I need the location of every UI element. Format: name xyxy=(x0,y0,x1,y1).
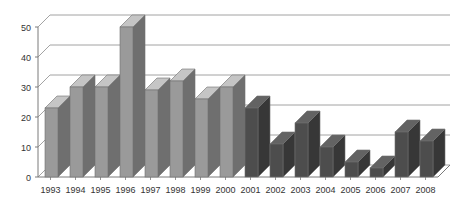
gridline-depth-connector xyxy=(38,15,50,27)
bar-column xyxy=(145,78,170,177)
x-axis-tick-label: 1993 xyxy=(40,185,60,195)
x-axis-tick-label: 1999 xyxy=(190,185,210,195)
bar-column xyxy=(345,150,370,177)
y-axis-tick-label: 20 xyxy=(21,113,31,123)
x-axis-tick-label: 1996 xyxy=(115,185,135,195)
y-axis-tick-label: 40 xyxy=(21,53,31,63)
x-axis-tick-label: 2002 xyxy=(265,185,285,195)
x-axis-tick-labels: 1993199419951996199719981999200020012002… xyxy=(40,185,435,195)
x-axis-tick-label: 2000 xyxy=(215,185,235,195)
bar-column xyxy=(320,135,345,177)
bar-side-face xyxy=(58,96,70,177)
bar-front-face xyxy=(370,168,383,177)
bar-side-face xyxy=(108,75,120,177)
y-axis-tick-label: 10 xyxy=(21,143,31,153)
bar-column xyxy=(120,15,145,177)
bar-side-face xyxy=(183,69,195,177)
bar-front-face xyxy=(270,144,283,177)
bar-front-face xyxy=(345,162,358,177)
x-axis-tick-label: 1997 xyxy=(140,185,160,195)
x-axis-tick-label: 2006 xyxy=(365,185,385,195)
bar-side-face xyxy=(133,15,145,177)
bar-front-face xyxy=(420,141,433,177)
x-axis-tick-label: 2004 xyxy=(315,185,335,195)
y-axis-tick-label: 0 xyxy=(26,173,31,183)
bar-front-face xyxy=(395,132,408,177)
x-axis-tick-label: 1994 xyxy=(65,185,85,195)
gridline-depth-connector xyxy=(38,75,50,87)
x-axis-tick-label: 2008 xyxy=(415,185,435,195)
bar-front-face xyxy=(295,123,308,177)
bar-column xyxy=(420,129,445,177)
bar-front-face xyxy=(170,81,183,177)
bar-front-face xyxy=(120,27,133,177)
x-axis-tick-label: 2001 xyxy=(240,185,260,195)
bar-front-face xyxy=(70,87,83,177)
bar-column xyxy=(245,96,270,177)
gridline-depth-connector xyxy=(38,45,50,57)
bar-chart: 01020304050 1993199419951996199719981999… xyxy=(0,0,456,209)
bar-front-face xyxy=(195,99,208,177)
bar-front-face xyxy=(45,108,58,177)
bar-side-face xyxy=(158,78,170,177)
bar-series xyxy=(45,15,445,177)
chart-canvas: 01020304050 1993199419951996199719981999… xyxy=(0,0,456,209)
bar-column xyxy=(95,75,120,177)
bar-column xyxy=(195,87,220,177)
bar-column xyxy=(45,96,70,177)
bar-column xyxy=(395,120,420,177)
bar-side-face xyxy=(258,96,270,177)
x-axis-tick-label: 1998 xyxy=(165,185,185,195)
x-axis-tick-label: 2005 xyxy=(340,185,360,195)
bar-front-face xyxy=(95,87,108,177)
bar-column xyxy=(220,75,245,177)
bar-front-face xyxy=(220,87,233,177)
bar-column xyxy=(370,156,395,177)
bar-front-face xyxy=(145,90,158,177)
bar-column xyxy=(170,69,195,177)
x-axis-tick-label: 1995 xyxy=(90,185,110,195)
bar-front-face xyxy=(320,147,333,177)
bar-column xyxy=(70,75,95,177)
bar-front-face xyxy=(245,108,258,177)
y-axis-tick-label: 50 xyxy=(21,23,31,33)
bar-side-face xyxy=(83,75,95,177)
x-axis-tick-label: 2007 xyxy=(390,185,410,195)
bar-column xyxy=(295,111,320,177)
y-axis-tick-labels: 01020304050 xyxy=(21,23,31,183)
bar-side-face xyxy=(233,75,245,177)
bar-column xyxy=(270,132,295,177)
x-axis-tick-label: 2003 xyxy=(290,185,310,195)
bar-side-face xyxy=(208,87,220,177)
y-axis-tick-label: 30 xyxy=(21,83,31,93)
